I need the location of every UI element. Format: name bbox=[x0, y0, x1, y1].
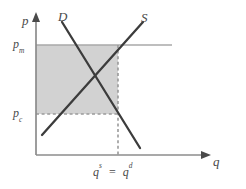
monopoly-price-label: pm bbox=[13, 38, 24, 53]
equilibrium-quantity-label: qs=qd bbox=[93, 165, 132, 178]
quantity-axis-label: q bbox=[213, 155, 220, 168]
quantity-demanded-superscript: d bbox=[129, 161, 133, 170]
competitive-price-label: pc bbox=[13, 107, 22, 122]
price-axis-arrowhead-icon bbox=[32, 12, 40, 22]
shaded-surplus-rectangle bbox=[36, 45, 118, 114]
monopoly-price-subscript: m bbox=[19, 46, 24, 55]
supply-curve-label: S bbox=[141, 11, 148, 24]
figure-canvas bbox=[0, 0, 246, 189]
quantity-axis-arrowhead-icon bbox=[201, 151, 211, 159]
quantity-supplied-superscript: s bbox=[99, 161, 102, 170]
competitive-price-subscript: c bbox=[19, 115, 22, 124]
supply-demand-figure: p pm pc D S q qs=qd bbox=[0, 0, 246, 189]
demand-curve-label: D bbox=[58, 10, 67, 23]
price-axis-label: p bbox=[22, 14, 29, 27]
quantity-demanded-base: q bbox=[123, 165, 129, 179]
equality-sign: = bbox=[102, 165, 123, 179]
